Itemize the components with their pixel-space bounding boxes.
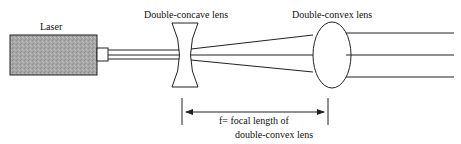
focal-length-label-line1: f= focal length of [219,115,289,126]
laser-label: Laser [40,21,62,32]
double-convex-lens [313,22,351,88]
focal-length-label-line2: double-convex lens [235,129,313,140]
beam-expander-diagram: Laser Double-concave lens Double-convex … [0,0,461,144]
laser-body [10,35,108,75]
input-beam [108,50,180,59]
double-convex-lens-label: Double-convex lens [292,9,372,20]
double-concave-lens-label: Double-concave lens [144,9,228,20]
diverging-beam [191,35,313,72]
output-beam [346,33,454,77]
